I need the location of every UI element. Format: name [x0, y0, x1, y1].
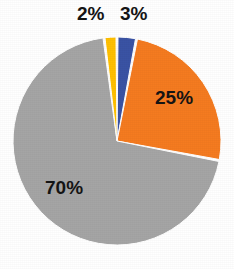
pie-slices: [13, 37, 221, 245]
slice-label-gray: 70%: [45, 178, 83, 197]
slice-label-orange: 25%: [155, 88, 193, 107]
pie-chart: 2% 3% 25% 70%: [0, 0, 234, 269]
pie-chart-canvas: [0, 0, 234, 269]
slice-label-yellow: 2%: [77, 4, 104, 23]
slice-label-blue: 3%: [120, 4, 147, 23]
